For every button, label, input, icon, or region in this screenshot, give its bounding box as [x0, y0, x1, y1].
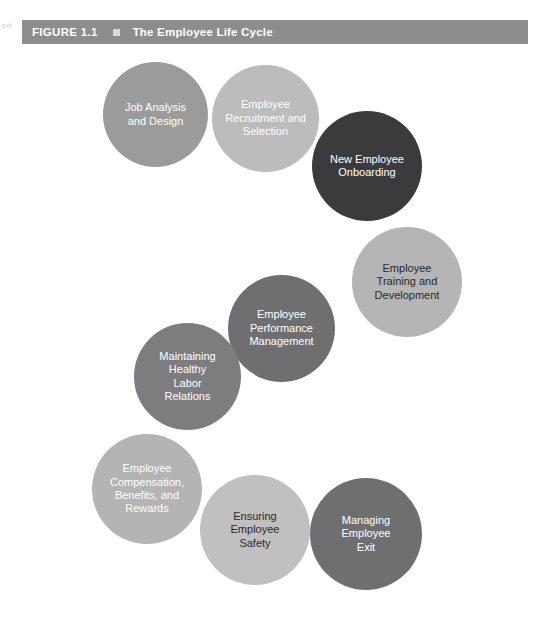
life-cycle-stage-9: Managing Employee Exit — [310, 478, 422, 590]
life-cycle-stage-label: Ensuring Employee Safety — [231, 510, 280, 550]
figure-number: FIGURE 1.1 — [32, 26, 98, 38]
life-cycle-stage-label: Maintaining Healthy Labor Relations — [159, 350, 215, 404]
figure-header-bar: FIGURE 1.1 The Employee Life Cycle — [22, 20, 528, 44]
figure-title: The Employee Life Cycle — [133, 26, 273, 38]
life-cycle-stage-label: Job Analysis and Design — [125, 101, 186, 128]
life-cycle-stage-label: Employee Compensation, Benefits, and Rew… — [110, 462, 184, 516]
life-cycle-stage-6: Maintaining Healthy Labor Relations — [134, 323, 241, 430]
life-cycle-stage-label: New Employee Onboarding — [330, 153, 404, 180]
life-cycle-stage-label: Employee Performance Management — [249, 308, 313, 348]
life-cycle-stage-2: Employee Recruitment and Selection — [212, 65, 319, 172]
life-cycle-stage-5: Employee Performance Management — [228, 275, 335, 382]
life-cycle-stage-label: Employee Training and Development — [375, 262, 440, 302]
margin-mark: ext — [2, 22, 11, 29]
life-cycle-stage-7: Employee Compensation, Benefits, and Rew… — [92, 434, 202, 544]
life-cycle-stage-1: Job Analysis and Design — [103, 62, 208, 167]
life-cycle-stage-label: Employee Recruitment and Selection — [225, 98, 306, 138]
figure-container: ext FIGURE 1.1 The Employee Life Cycle J… — [0, 0, 549, 619]
square-bullet-icon — [113, 29, 120, 36]
life-cycle-stage-8: Ensuring Employee Safety — [200, 475, 310, 585]
life-cycle-stage-label: Managing Employee Exit — [342, 514, 391, 554]
life-cycle-stage-3: New Employee Onboarding — [312, 111, 422, 221]
life-cycle-stage-4: Employee Training and Development — [352, 227, 462, 337]
